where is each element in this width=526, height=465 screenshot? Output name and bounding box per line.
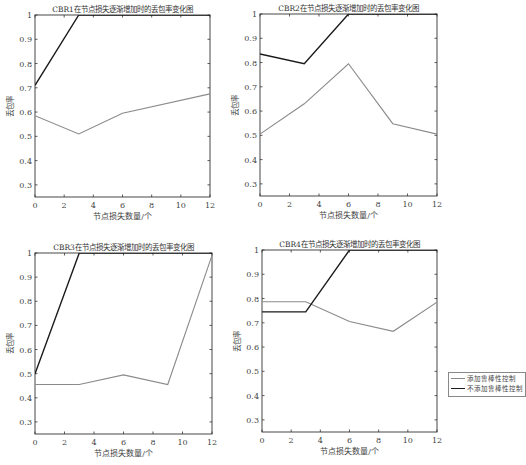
x-tick-label: 2 <box>287 200 292 209</box>
y-tick-label: 0.5 <box>19 370 32 379</box>
y-axis-label: 丢包率 <box>5 95 15 117</box>
legend-swatch-gray <box>451 378 465 379</box>
y-tick-label: 1 <box>252 10 257 19</box>
y-tick-label: 0.4 <box>244 156 257 165</box>
x-tick-label: 0 <box>32 438 37 447</box>
chart-title: CBR1在节点损失逐渐增加时的丢包率变化图 <box>52 4 193 14</box>
x-tick-label: 10 <box>403 436 413 445</box>
y-tick-label: 0.7 <box>244 83 257 92</box>
x-tick-label: 12 <box>207 438 217 447</box>
x-tick-label: 4 <box>316 200 321 209</box>
x-tick-label: 12 <box>432 436 442 445</box>
x-tick-label: 10 <box>402 200 412 209</box>
y-tick-label: 0.3 <box>244 180 257 189</box>
y-axis-label: 丢包率 <box>5 332 15 354</box>
x-tick-label: 2 <box>62 438 67 447</box>
x-tick-label: 4 <box>91 438 96 447</box>
x-tick-label: 8 <box>375 200 380 209</box>
y-tick-label: 0.5 <box>246 367 259 376</box>
chart-panel-cbr4: 0246810120.30.40.50.60.70.80.91CBR4在节点损失… <box>232 239 442 456</box>
x-tick-label: 10 <box>177 438 187 447</box>
y-tick-label: 0.6 <box>19 108 32 117</box>
x-tick-label: 12 <box>205 201 215 210</box>
y-tick-label: 0.9 <box>19 35 32 44</box>
plot-area <box>262 250 437 432</box>
y-tick-label: 0.4 <box>246 392 259 401</box>
y-tick-label: 0.7 <box>246 319 259 328</box>
y-tick-label: 0.9 <box>19 273 32 282</box>
x-tick-label: 0 <box>257 200 262 209</box>
y-tick-label: 0.6 <box>246 343 259 352</box>
x-tick-label: 2 <box>62 201 67 210</box>
y-tick-label: 0.7 <box>19 84 32 93</box>
y-tick-label: 0.9 <box>244 34 257 43</box>
x-tick-label: 6 <box>120 201 125 210</box>
y-axis-label: 丢包率 <box>230 94 240 116</box>
y-tick-label: 0.5 <box>19 132 32 141</box>
y-tick-label: 0.3 <box>19 418 32 427</box>
chart-panel-cbr2: 0246810120.30.40.50.60.70.80.91CBR2在节点损失… <box>230 3 442 220</box>
x-axis-label: 节点损失数量/个 <box>320 446 379 456</box>
plot-area <box>35 253 212 434</box>
y-tick-label: 1 <box>27 11 32 20</box>
x-tick-label: 6 <box>121 438 126 447</box>
x-tick-label: 6 <box>347 436 352 445</box>
x-axis-label: 节点损失数量/个 <box>93 211 152 221</box>
x-tick-label: 2 <box>289 436 294 445</box>
x-tick-label: 0 <box>32 201 37 210</box>
plot-area <box>260 14 437 196</box>
x-tick-label: 6 <box>346 200 351 209</box>
x-tick-label: 10 <box>176 201 186 210</box>
chart-title: CBR4在节点损失逐渐增加时的丢包率变化图 <box>279 239 420 249</box>
y-tick-label: 0.4 <box>19 157 32 166</box>
x-axis-label: 节点损失数量/个 <box>319 210 378 220</box>
y-tick-label: 0.4 <box>19 394 32 403</box>
y-tick-label: 0.8 <box>246 295 259 304</box>
y-tick-label: 0.9 <box>246 270 259 279</box>
y-tick-label: 0.8 <box>244 59 257 68</box>
chart-title: CBR2在节点损失逐渐增加时的丢包率变化图 <box>278 3 419 13</box>
x-tick-label: 8 <box>150 438 155 447</box>
legend-item-without-robust-control: 不添加鲁棒性控制 <box>449 383 525 393</box>
x-axis-label: 节点损失数量/个 <box>94 448 153 458</box>
chart-title: CBR3在节点损失逐渐增加时的丢包率变化图 <box>53 242 194 252</box>
y-tick-label: 0.6 <box>244 107 257 116</box>
y-tick-label: 0.6 <box>19 346 32 355</box>
x-tick-label: 8 <box>376 436 381 445</box>
y-tick-label: 0.8 <box>19 60 32 69</box>
legend-label: 添加鲁棒性控制 <box>467 373 516 383</box>
y-axis-label: 丢包率 <box>232 330 242 352</box>
x-tick-label: 4 <box>318 436 323 445</box>
legend-swatch-black <box>451 388 465 389</box>
y-tick-label: 0.5 <box>244 131 257 140</box>
x-tick-label: 0 <box>259 436 264 445</box>
y-tick-label: 0.8 <box>19 297 32 306</box>
y-tick-label: 0.7 <box>19 321 32 330</box>
x-tick-label: 12 <box>432 200 442 209</box>
chart-legend: 添加鲁棒性控制 不添加鲁棒性控制 <box>448 372 526 397</box>
y-tick-label: 0.3 <box>19 181 32 190</box>
x-tick-label: 8 <box>149 201 154 210</box>
legend-label: 不添加鲁棒性控制 <box>467 383 523 393</box>
chart-panel-cbr3: 0246810120.30.40.50.60.70.80.91CBR3在节点损失… <box>5 242 217 458</box>
chart-panel-cbr1: 0246810120.30.40.50.60.70.80.91CBR1在节点损失… <box>5 4 215 221</box>
y-tick-label: 0.3 <box>246 416 259 425</box>
y-tick-label: 1 <box>254 246 259 255</box>
x-tick-label: 4 <box>91 201 96 210</box>
y-tick-label: 1 <box>27 249 32 258</box>
legend-item-with-robust-control: 添加鲁棒性控制 <box>449 373 525 383</box>
